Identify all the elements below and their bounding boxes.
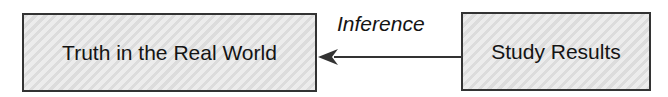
truth-in-real-world-label: Truth in the Real World bbox=[62, 41, 277, 65]
study-results-label: Study Results bbox=[491, 40, 621, 64]
inference-label: Inference bbox=[337, 12, 425, 36]
inference-arrow-icon bbox=[316, 47, 463, 67]
truth-in-real-world-box: Truth in the Real World bbox=[22, 13, 317, 92]
study-results-box: Study Results bbox=[461, 12, 651, 91]
